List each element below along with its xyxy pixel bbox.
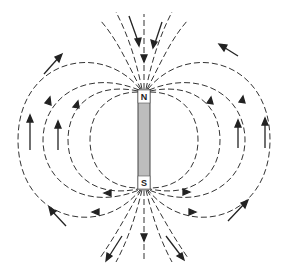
bar-magnet-field-diagram: N S xyxy=(0,0,294,275)
bar-magnet: N S xyxy=(138,90,150,189)
field-lines-bottom xyxy=(100,190,188,262)
field-lines-right xyxy=(148,62,270,217)
field-lines-top xyxy=(100,12,188,89)
north-pole-label: N xyxy=(141,92,148,102)
south-pole-label: S xyxy=(141,178,147,188)
magnet-body xyxy=(138,90,150,189)
field-lines-left xyxy=(18,62,140,217)
